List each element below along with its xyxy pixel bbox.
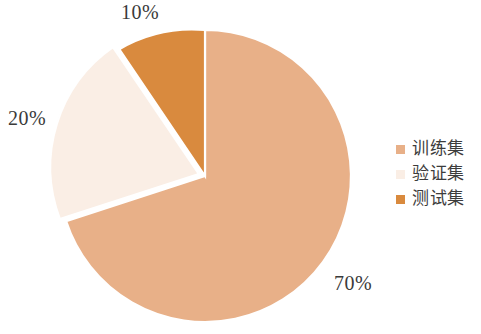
legend-label-training: 训练集 (412, 140, 465, 158)
legend-label-test: 测试集 (412, 190, 465, 208)
pie-chart-figure: 10% 20% 70% 训练集 验证集 测试集 (0, 0, 481, 334)
legend-item-test[interactable]: 测试集 (396, 190, 465, 208)
legend-label-validation: 验证集 (412, 165, 465, 183)
pie-label-validation-percentage: 20% (8, 107, 46, 130)
legend-swatch-test (396, 195, 405, 204)
chart-legend: 训练集 验证集 测试集 (396, 140, 465, 208)
pie-label-test-percentage: 10% (121, 1, 159, 24)
legend-swatch-validation (396, 170, 405, 179)
legend-item-validation[interactable]: 验证集 (396, 165, 465, 183)
legend-item-training[interactable]: 训练集 (396, 140, 465, 158)
legend-swatch-training (396, 145, 405, 154)
pie-label-training-percentage: 70% (334, 272, 372, 295)
